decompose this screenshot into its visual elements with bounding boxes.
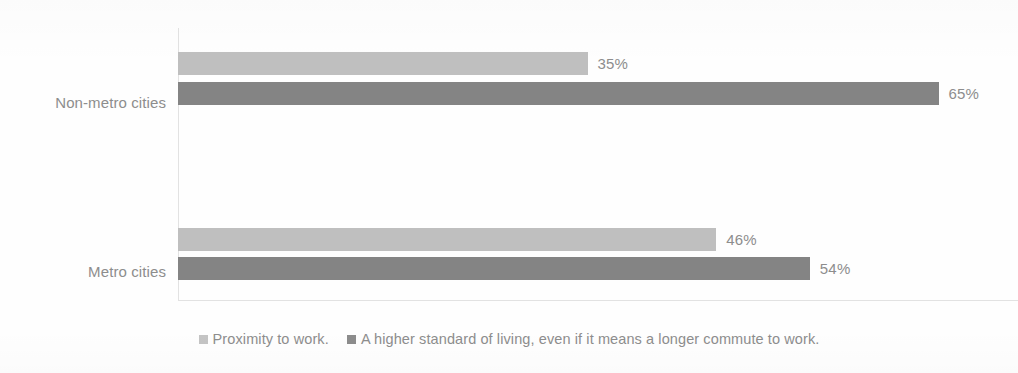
chart-legend: Proximity to work. A higher standard of … bbox=[0, 330, 1018, 347]
bar-non-metro-higher-standard bbox=[178, 82, 939, 105]
horizontal-bar-chart: Non-metro cities Metro cities 35% 65% 46… bbox=[0, 0, 1018, 373]
bar-metro-proximity bbox=[178, 228, 716, 251]
plot-area: 35% 65% 46% 54% bbox=[178, 28, 1018, 300]
bar-value-label-metro-proximity: 46% bbox=[726, 228, 757, 251]
legend-swatch-icon-series-1 bbox=[347, 335, 356, 344]
category-label-non-metro-cities: Non-metro cities bbox=[55, 94, 166, 111]
bar-value-label-metro-higher-standard: 54% bbox=[820, 257, 851, 280]
category-axis: Non-metro cities Metro cities bbox=[0, 28, 178, 300]
bar-value-label-non-metro-proximity: 35% bbox=[598, 52, 629, 75]
legend-label-proximity-to-work: Proximity to work. bbox=[213, 331, 329, 347]
bar-value-label-non-metro-higher-standard: 65% bbox=[949, 82, 980, 105]
legend-label-higher-standard-of-living: A higher standard of living, even if it … bbox=[361, 331, 819, 347]
bar-metro-higher-standard bbox=[178, 257, 810, 280]
legend-item-proximity-to-work: Proximity to work. bbox=[199, 331, 329, 347]
bar-non-metro-proximity bbox=[178, 52, 588, 75]
category-label-metro-cities: Metro cities bbox=[88, 263, 166, 280]
legend-swatch-icon-series-0 bbox=[199, 335, 208, 344]
category-baseline bbox=[178, 300, 1018, 301]
legend-item-higher-standard-of-living: A higher standard of living, even if it … bbox=[347, 331, 819, 347]
